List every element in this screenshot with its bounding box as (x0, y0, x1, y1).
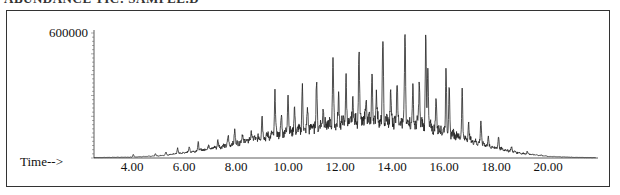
x-tick-label: 8.00 (225, 159, 248, 174)
x-tick-label: 16.00 (429, 159, 458, 174)
x-tick-label: 18.00 (481, 159, 510, 174)
x-axis: 4.006.008.0010.0012.0014.0016.0018.0020.… (94, 158, 598, 174)
tic-trace-line (94, 34, 596, 157)
y-tick-label: 600000 (49, 25, 88, 40)
x-tick-label: 14.00 (377, 159, 406, 174)
x-axis-label: Time--> (20, 154, 63, 169)
x-tick-label: 4.00 (121, 159, 144, 174)
x-tick-label: 6.00 (173, 159, 196, 174)
chromatogram-chart: 600000 4.006.008.0010.0012.0014.0016.001… (0, 0, 620, 195)
x-tick-label: 12.00 (325, 159, 354, 174)
x-tick-label: 10.00 (273, 159, 302, 174)
y-axis: 600000 (49, 25, 94, 158)
x-tick-label: 20.00 (533, 159, 562, 174)
